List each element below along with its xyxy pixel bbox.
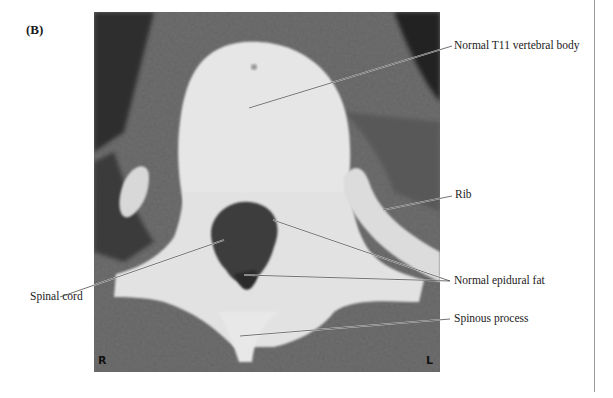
page-margin-rule [594,0,595,392]
label-rib: Rib [455,188,472,200]
label-epidural-fat: Normal epidural fat [454,274,545,286]
label-vertebral-body: Normal T11 vertebral body [454,39,580,51]
left-side-marker: L [426,354,433,367]
label-spinous-process: Spinous process [454,312,528,324]
panel-label: (B) [26,22,43,38]
right-side-marker: R [98,354,106,367]
ct-axial-image [94,12,440,372]
label-spinal-cord: Spinal cord [30,290,83,302]
